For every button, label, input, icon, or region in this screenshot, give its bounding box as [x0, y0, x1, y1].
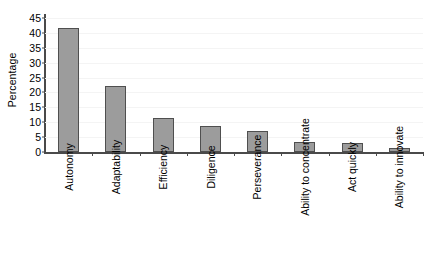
gridline: [45, 107, 423, 108]
x-axis-tick-label: Ability to innovate: [392, 160, 406, 268]
x-axis-tick-mark: [234, 152, 235, 156]
y-axis-tick-mark: [42, 32, 46, 33]
x-axis-tick-label-text: Efficiency: [157, 145, 169, 190]
x-axis-tick-mark: [376, 152, 377, 156]
y-axis-tick-label: 25: [29, 72, 41, 84]
x-axis-tick-label: Autonomy: [62, 160, 76, 268]
x-axis-tick-label-text: Ability to concentrate: [299, 118, 311, 215]
x-axis-tick-label-text: Ability to innovate: [393, 126, 405, 208]
y-axis-title-text: Percentage: [6, 53, 18, 108]
x-axis-tick-label: Efficiency: [156, 160, 170, 268]
y-axis-tick-label: 20: [29, 86, 41, 98]
y-axis-tick-label: 35: [29, 42, 41, 54]
gridline: [45, 137, 423, 138]
x-axis-tick-label: Diligence: [203, 160, 217, 268]
y-axis-title: Percentage: [0, 0, 24, 160]
plot-area: 051015202530354045: [45, 18, 423, 152]
y-axis-tick-mark: [42, 77, 46, 78]
gridline: [45, 33, 423, 34]
x-axis-tick-label-text: Adaptability: [110, 140, 122, 194]
y-axis-tick-mark: [42, 107, 46, 108]
y-axis-tick-label: 40: [29, 27, 41, 39]
y-axis-tick-mark: [42, 92, 46, 93]
x-axis-tick-mark: [281, 152, 282, 156]
x-axis-tick-label: Ability to concentrate: [298, 160, 312, 268]
x-axis-tick-label-text: Act quickly: [346, 142, 358, 192]
x-axis-tick-label-text: Autonomy: [63, 143, 75, 190]
gridline: [45, 63, 423, 64]
x-axis-tick-label-text: Diligence: [204, 145, 216, 188]
y-axis-tick-mark: [42, 18, 46, 19]
gridline: [45, 122, 423, 123]
y-axis-tick-mark: [42, 122, 46, 123]
x-axis-tick-label: Perseverance: [251, 160, 265, 268]
y-axis-tick-mark: [42, 137, 46, 138]
x-axis-tick-mark: [140, 152, 141, 156]
bar-chart: Percentage 051015202530354045 AutonomyAd…: [0, 0, 435, 272]
gridline: [45, 18, 423, 19]
y-axis-tick-mark: [42, 152, 46, 153]
bar: [58, 28, 79, 152]
x-axis-tick-mark: [329, 152, 330, 156]
x-axis-tick-mark: [187, 152, 188, 156]
y-axis-tick-label: 5: [35, 131, 41, 143]
y-axis-tick-mark: [42, 47, 46, 48]
x-axis-tick-label: Adaptability: [109, 160, 123, 268]
y-axis-tick-label: 30: [29, 57, 41, 69]
y-axis-tick-label: 45: [29, 12, 41, 24]
x-axis-tick-label: Act quickly: [345, 160, 359, 268]
gridline: [45, 48, 423, 49]
x-axis-tick-mark: [92, 152, 93, 156]
gridline: [45, 92, 423, 93]
gridline: [45, 78, 423, 79]
y-axis-tick-label: 10: [29, 116, 41, 128]
y-axis-line: [44, 14, 46, 152]
y-axis-tick-mark: [42, 62, 46, 63]
y-axis-tick-label: 0: [35, 146, 41, 158]
x-axis-tick-mark: [423, 152, 424, 156]
y-axis-tick-label: 15: [29, 101, 41, 113]
